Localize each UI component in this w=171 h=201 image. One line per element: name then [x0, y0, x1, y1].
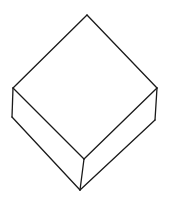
isometric-box-drawing — [0, 0, 171, 201]
drawing-canvas — [0, 0, 171, 201]
